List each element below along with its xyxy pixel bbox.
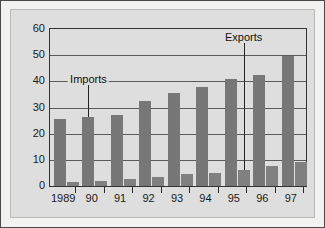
bar-exports-94 [209, 173, 221, 186]
annotation-label-imports: Imports [68, 73, 109, 85]
bar-exports-95 [238, 170, 250, 186]
x-tick-label: 96 [256, 192, 268, 204]
x-tick-label: 90 [86, 192, 98, 204]
bar-imports-90 [82, 117, 94, 186]
annotation-label-exports: Exports [223, 31, 264, 43]
bar-imports-94 [196, 87, 208, 186]
y-tick-label: 60 [21, 22, 45, 34]
y-tick-label: 50 [21, 48, 45, 60]
figure-inner-panel: 0102030405060 ImportsExports 19899091929… [10, 9, 315, 218]
plot-area: ImportsExports [49, 28, 307, 187]
bar-imports-93 [168, 93, 180, 186]
bar-exports-1989 [67, 182, 79, 186]
x-axis: 19899091929394959697 [49, 190, 307, 210]
y-axis: 0102030405060 [19, 28, 45, 187]
bar-imports-1989 [54, 119, 66, 186]
bar-exports-93 [181, 174, 193, 186]
bar-imports-91 [111, 115, 123, 186]
bar-exports-92 [152, 177, 164, 186]
y-tick-label: 20 [21, 127, 45, 139]
bar-imports-95 [225, 79, 237, 186]
y-tick-label: 40 [21, 74, 45, 86]
x-tick-label: 91 [114, 192, 126, 204]
y-tick-label: 30 [21, 101, 45, 113]
bar-exports-96 [266, 166, 278, 186]
figure-frame: 0102030405060 ImportsExports 19899091929… [0, 0, 325, 228]
x-tick-label: 1989 [51, 192, 75, 204]
bar-exports-90 [95, 181, 107, 186]
x-tick-label: 92 [142, 192, 154, 204]
y-tick-label: 10 [21, 153, 45, 165]
gridline [50, 55, 306, 56]
bar-imports-97 [282, 56, 294, 186]
annotation-leader-exports [244, 43, 245, 170]
bar-exports-91 [124, 179, 136, 186]
x-tick-label: 95 [228, 192, 240, 204]
bar-imports-96 [253, 75, 265, 186]
y-tick-label: 0 [21, 179, 45, 191]
x-tick-label: 97 [285, 192, 297, 204]
x-tick-label: 93 [171, 192, 183, 204]
annotation-leader-imports [88, 85, 89, 116]
bar-exports-97 [295, 162, 307, 186]
x-tick-label: 94 [199, 192, 211, 204]
bar-imports-92 [139, 101, 151, 186]
